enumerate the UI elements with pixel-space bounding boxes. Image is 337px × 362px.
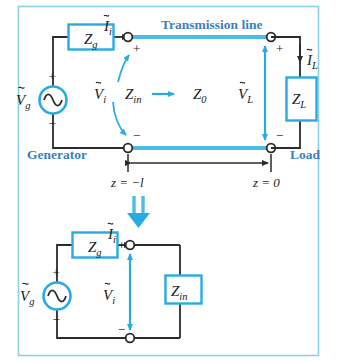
input-minus-sign-equivalent: − <box>118 322 125 337</box>
node-input-top-equivalent[interactable] <box>126 241 135 250</box>
z-right-label: z = 0 <box>252 175 280 190</box>
node-input-bottom-equivalent[interactable] <box>126 334 135 343</box>
load-minus-sign: − <box>276 128 283 143</box>
node-input-top[interactable] <box>124 33 133 42</box>
input-plus-sign-equivalent: + <box>118 238 125 253</box>
z-left-label: z = −l <box>110 175 144 190</box>
load-label: Load <box>290 147 321 162</box>
generator-label: Generator <box>27 147 87 162</box>
figure-root: Zg + − Vg Ii Transmission line <box>0 0 337 362</box>
circuit-diagram-svg: Zg + − Vg Ii Transmission line <box>0 0 337 362</box>
source-plus-sign-equivalent: + <box>53 265 60 280</box>
load-plus-sign: + <box>276 41 283 56</box>
transmission-line-label: Transmission line <box>161 17 262 32</box>
source-minus-sign-equivalent: − <box>53 312 60 327</box>
source-minus-sign: − <box>49 116 56 131</box>
input-minus-sign: − <box>133 128 140 143</box>
input-plus-sign: + <box>133 41 140 56</box>
source-plus-sign: + <box>49 69 56 84</box>
node-input-bottom[interactable] <box>124 144 133 153</box>
